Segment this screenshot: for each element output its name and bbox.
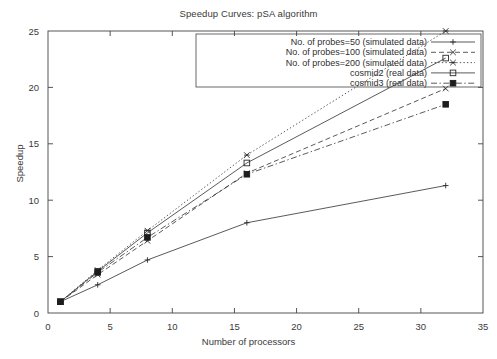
series-0 [58, 183, 449, 305]
series-line [60, 58, 445, 302]
y-tick-label: 0 [34, 308, 39, 319]
y-tick-label: 20 [28, 82, 39, 93]
marker-filled-square [450, 80, 456, 86]
plot-canvas: 051015202530350510152025No. of probes=50… [0, 0, 497, 359]
legend-label-3: cosmid2 (real data) [350, 68, 427, 78]
series-line [60, 186, 445, 302]
y-tick-label: 10 [28, 195, 39, 206]
marker-filled-square [95, 270, 101, 276]
y-tick-label: 15 [28, 138, 39, 149]
x-tick-label: 10 [167, 321, 178, 332]
series-1 [58, 86, 449, 305]
series-3 [58, 55, 449, 304]
x-tick-label: 35 [478, 321, 489, 332]
x-tick-label: 0 [45, 321, 50, 332]
y-tick-label: 25 [28, 26, 39, 37]
legend-label-4: cosmid3 (real data) [350, 78, 427, 88]
series-line [60, 89, 445, 302]
x-tick-label: 25 [353, 321, 364, 332]
legend-label-2: No. of probes=200 (simulated data) [286, 58, 427, 68]
series-line [60, 104, 445, 301]
legend-label-1: No. of probes=100 (simulated data) [286, 47, 427, 57]
marker-filled-square [443, 102, 449, 108]
y-tick-label: 5 [34, 251, 39, 262]
series-4 [58, 102, 449, 305]
chart-legend: No. of probes=50 (simulated data)No. of … [196, 34, 481, 88]
marker-filled-square [58, 299, 64, 305]
marker-filled-square [145, 235, 151, 241]
x-tick-label: 15 [229, 321, 240, 332]
x-tick-label: 30 [416, 321, 427, 332]
x-tick-label: 5 [107, 321, 112, 332]
marker-filled-square [244, 171, 250, 177]
chart-figure: Speedup Curves: pSA algorithm Number of … [0, 0, 497, 359]
x-tick-label: 20 [291, 321, 302, 332]
legend-label-0: No. of probes=50 (simulated data) [291, 37, 427, 47]
